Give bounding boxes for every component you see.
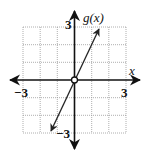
x-tick-neg3: −3: [14, 86, 28, 99]
x-axis-label: x: [129, 64, 135, 77]
x-tick-pos3: 3: [121, 86, 128, 99]
y-tick-neg3: −3: [56, 127, 70, 140]
y-tick-pos3: 3: [65, 18, 72, 31]
open-circle-hole: [72, 77, 78, 83]
y-axis-label: g(x): [83, 11, 104, 24]
graph-canvas: [0, 0, 149, 154]
